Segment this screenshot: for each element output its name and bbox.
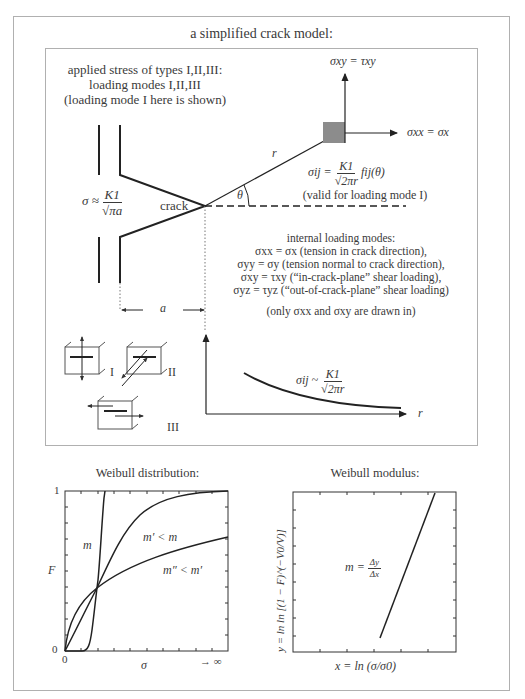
weibull-x-label: σ — [141, 658, 147, 673]
drawn-note: (only σxx and σxy are drawn in) — [208, 305, 474, 318]
internal-modes-block: internal loading modes: σxx = σx (tensio… — [208, 232, 474, 318]
weibull-x-tick-0: 0 — [62, 653, 68, 665]
modulus-x-label: x = ln (σ/σ0) — [335, 659, 396, 674]
mode-i-cube — [65, 337, 105, 380]
r-label: r — [272, 146, 277, 161]
weibull-modulus-title: Weibull modulus: — [290, 466, 460, 481]
mode-iii-cube — [88, 396, 143, 429]
mode-ii-cube — [122, 342, 167, 386]
theta-arc — [244, 185, 249, 206]
modulus-line — [380, 493, 435, 638]
mode-i-label: I — [110, 365, 114, 380]
internal-modes-title: internal loading modes: — [208, 232, 474, 245]
curve-m-prime — [65, 491, 228, 651]
decay-formula: σij ~ K1√2πr — [296, 368, 344, 395]
valid-note: (valid for loading mode I) — [280, 188, 450, 203]
stress-element — [323, 122, 345, 143]
modulus-slope-label: m = ΔyΔx — [345, 558, 381, 579]
sigma-xx-label: σxx = σx — [407, 125, 449, 140]
near-tip-formula: σij = K1√2πr fij(θ) — [308, 160, 385, 187]
internal-mode-line: σxy = τxy (“in-crack-plane” shear loadin… — [208, 271, 474, 284]
weibull-x-tick-inf: → ∞ — [200, 655, 222, 667]
curve-label-m-prime: m′ < m — [143, 530, 177, 545]
far-field-formula: σ ≈ K1√πa — [82, 188, 122, 217]
a-label: a — [160, 301, 166, 316]
sigma-xy-label: σxy = τxy — [330, 54, 376, 69]
decay-axis-label: r — [418, 406, 423, 421]
crack-label: crack — [160, 198, 188, 214]
weibull-y-tick-1: 1 — [54, 484, 60, 496]
internal-mode-line: σxx = σx (tension in crack direction), — [208, 245, 474, 258]
internal-mode-line: σyz = τyz (“out-of-crack-plane” shear lo… — [208, 284, 474, 297]
mode-ii-label: II — [168, 365, 176, 380]
modulus-y-label: y = ln ln [(1 − F)^(−V0/V)] — [274, 529, 286, 652]
curve-m-double-prime — [65, 537, 228, 651]
crack-diagram-graphics — [0, 0, 525, 699]
weibull-distribution-title: Weibull distribution: — [50, 466, 245, 481]
curve-label-m: m — [83, 538, 92, 553]
curve-m — [65, 491, 105, 651]
mode-iii-label: III — [167, 420, 179, 435]
internal-mode-line: σyy = σy (tension normal to crack direct… — [208, 258, 474, 271]
theta-label: θ — [237, 188, 243, 203]
curve-label-m-double-prime: m″ < m′ — [163, 563, 202, 578]
weibull-y-tick-0: 0 — [52, 643, 58, 655]
weibull-y-label: F — [48, 563, 55, 578]
weibull-distribution-plot — [65, 491, 228, 651]
